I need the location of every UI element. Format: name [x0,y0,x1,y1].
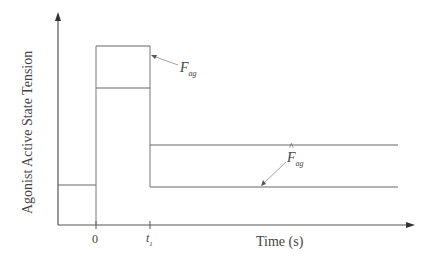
f-hat-ag-symbol: F [287,150,296,165]
x-axis-label: Time (s) [256,234,303,250]
f-ag-label: Fag [180,60,197,76]
y-axis-label: Agonist Active State Tension [20,51,36,214]
f-ag-leader [153,56,178,65]
f-hat-ag-subscript: ag [296,159,304,168]
tick-label-t1: t1 [146,231,153,246]
y-axis-arrow-icon [55,12,61,21]
x-axis-arrow-icon [406,222,415,228]
diagram-canvas [0,0,436,266]
f-ag-symbol: F [180,60,189,75]
f-hat-ag-label: ^Fag [287,150,304,166]
f-hat-ag-leader [263,162,286,184]
hat-icon: ^ [289,141,294,152]
f-hat-ag-leader-arrow-icon [261,180,266,186]
tick-t-subscript: 1 [149,240,153,248]
f-ag-subscript: ag [189,69,197,78]
tick-label-0: 0 [92,232,98,247]
